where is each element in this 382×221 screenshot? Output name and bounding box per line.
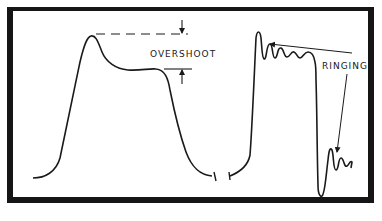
ringing-arrow-bottom: [337, 74, 347, 152]
break-tick-left: [214, 172, 216, 181]
frame-border: [7, 7, 374, 203]
diagram-canvas: [0, 0, 382, 221]
ringing-label: RINGING: [322, 61, 368, 71]
ringing-pulse-path: [230, 32, 352, 196]
break-tick-right: [229, 172, 230, 180]
overshoot-waveform: [33, 56, 58, 178]
overshoot-label: OVERSHOOT: [150, 49, 216, 59]
waveform-diagram: OVERSHOOT RINGING: [0, 0, 382, 221]
